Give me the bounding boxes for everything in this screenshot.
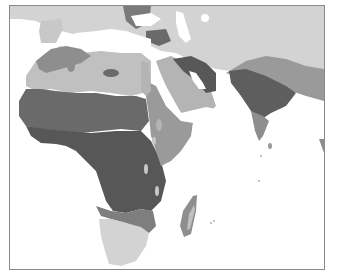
island-dot	[210, 222, 212, 224]
choropleth-map	[10, 6, 324, 269]
region-tibesti-spot	[103, 69, 119, 77]
map-frame	[9, 5, 325, 270]
lake-malawi	[155, 186, 159, 196]
region-sri-lanka	[268, 143, 272, 149]
lake-tanganyika	[144, 164, 148, 174]
island-dot	[258, 180, 260, 182]
region-europe	[39, 19, 63, 43]
region-atlas-spot	[67, 60, 75, 72]
island-dot	[213, 220, 215, 222]
island-dot	[260, 155, 262, 157]
water-aral	[201, 14, 209, 22]
lake-victoria	[152, 137, 156, 145]
highland-spot	[156, 119, 162, 131]
